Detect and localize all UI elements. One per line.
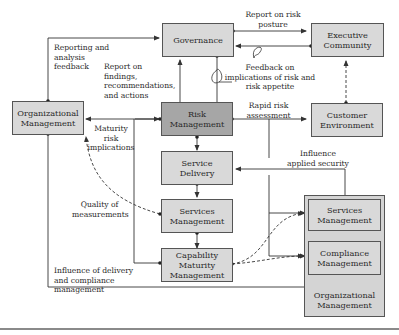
node-service-delivery: Service Delivery [161,151,233,185]
node-label: Organizational Management [16,108,80,128]
risk-management-diagram: Governance Executive Community Organizat… [0,0,399,335]
node-label: Compliance Management [312,248,377,268]
bottom-rule [0,328,399,330]
node-label: Capability Maturity Management [165,250,229,280]
node-services-management: Services Management [161,199,233,233]
label-report-findings: Report on findings, recommendations, and… [104,62,174,100]
label-rapid-risk: Rapid risk assessment [246,101,291,120]
node-label: Governance [173,35,223,45]
node-services-management-right: Services Management [308,199,381,231]
node-executive-community: Executive Community [311,23,384,57]
label-maturity-risk: Maturity risk implications [86,124,136,153]
node-capability-maturity-management: Capability Maturity Management [161,248,233,282]
label-feedback-implications: Feedback on implications of risk and ris… [222,63,318,92]
node-governance: Governance [162,23,234,57]
label-quality-measurements: Quality of measurements [72,200,127,219]
label-report-risk-posture: Report on risk posture [240,10,306,29]
node-label: Executive Community [315,30,380,50]
node-label: Services Management [312,205,377,225]
node-risk-management: Risk Management [161,102,233,136]
node-organizational-management: Organizational Management [12,101,84,135]
node-label: Services Management [165,206,229,226]
label-influence-delivery: Influence of delivery and compliance man… [54,266,146,295]
group-label: Organizational Management [308,290,381,310]
label-influence-security: Influence applied security [285,149,351,168]
node-label: Risk Management [165,109,229,129]
node-label: Customer Environment [315,110,379,130]
node-label: Service Delivery [165,158,229,178]
node-compliance-management: Compliance Management [308,241,381,275]
node-customer-environment: Customer Environment [311,103,383,137]
